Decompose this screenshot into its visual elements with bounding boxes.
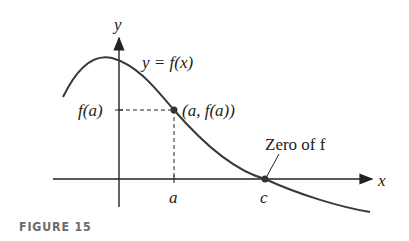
zero-annotation: Zero of f: [265, 135, 326, 154]
y-axis-label: y: [112, 15, 122, 34]
point-zero-c: [262, 176, 269, 183]
point-a-fa: [171, 107, 178, 114]
curve-label: y = f(x): [140, 53, 193, 72]
x-axis-label: x: [377, 171, 386, 190]
annotation-leader: [267, 154, 279, 176]
figure-caption: FIGURE 15: [19, 219, 92, 234]
x-tick-label-a: a: [169, 188, 178, 207]
y-tick-label-fa: f(a): [78, 101, 103, 120]
x-tick-label-c: c: [260, 188, 268, 207]
function-zero-diagram: y x y = f(x) (a, f(a)) f(a) a c Zero of …: [0, 0, 409, 241]
point-label: (a, f(a)): [182, 101, 235, 120]
